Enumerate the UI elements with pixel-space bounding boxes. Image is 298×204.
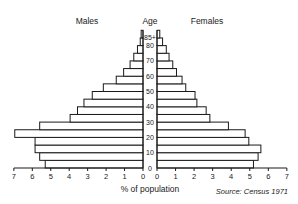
female-bar-70-74: [157, 53, 169, 61]
age-tick-30: 30: [146, 119, 154, 126]
female-bar-65-69: [157, 61, 173, 69]
male-x-tick: 4: [67, 172, 71, 181]
female-bar-25-29: [157, 122, 228, 130]
male-x-tick: 5: [49, 172, 53, 181]
female-bar-45-49: [157, 92, 195, 100]
male-x-tick: 6: [30, 172, 34, 181]
female-x-tick: 5: [248, 172, 252, 181]
female-bar-30-34: [157, 114, 210, 122]
age-tick-20: 20: [146, 134, 154, 141]
male-bar-0-4: [45, 160, 143, 168]
age-tick-40: 40: [146, 103, 154, 110]
male-x-tick: 0: [141, 172, 145, 181]
male-x-tick: 1: [122, 172, 126, 181]
age-tick-85+: 85+: [144, 34, 156, 41]
male-bar-15-19: [35, 137, 143, 145]
female-x-tick: 0: [155, 172, 159, 181]
age-tick-50: 50: [146, 88, 154, 95]
male-bar-65-69: [130, 61, 143, 69]
male-bar-5-9: [40, 153, 143, 161]
female-bar-80-84: [157, 38, 163, 46]
male-bars: [15, 30, 143, 168]
age-header-label: Age: [142, 16, 157, 26]
age-axis-labels: 0102030405060708085+: [144, 34, 156, 171]
age-tick-0: 0: [148, 165, 152, 172]
male-bar-50-54: [103, 84, 143, 92]
female-x-tick: 2: [192, 172, 196, 181]
female-x-tick: 6: [266, 172, 270, 181]
male-x-tick: 7: [12, 172, 16, 181]
male-bar-10-14: [35, 145, 143, 153]
source-note: Source: Census 1971: [216, 187, 288, 196]
male-bar-25-29: [40, 122, 143, 130]
female-bar-10-14: [157, 145, 261, 153]
female-bar-55-59: [157, 76, 182, 84]
female-bar-60-64: [157, 69, 176, 77]
female-bar-15-19: [157, 137, 249, 145]
females-label: Females: [191, 16, 224, 26]
male-bar-70-74: [134, 53, 143, 61]
age-tick-60: 60: [146, 73, 154, 80]
female-bar-75-79: [157, 46, 166, 54]
female-bar-35-39: [157, 107, 206, 115]
male-bar-40-44: [84, 99, 143, 107]
population-pyramid-chart: 0011223344556677 0102030405060708085+ Ma…: [0, 0, 298, 204]
female-x-tick: 1: [173, 172, 177, 181]
female-x-tick: 3: [211, 172, 215, 181]
female-bar-40-44: [157, 99, 197, 107]
male-bar-55-59: [116, 76, 143, 84]
female-bars: [157, 30, 261, 168]
female-bar-50-54: [157, 84, 186, 92]
male-bar-60-64: [124, 69, 143, 77]
female-bar-0-4: [157, 160, 253, 168]
age-tick-70: 70: [146, 57, 154, 64]
female-bar-20-24: [157, 130, 245, 138]
age-tick-10: 10: [146, 149, 154, 156]
male-bar-45-49: [92, 92, 143, 100]
female-x-tick: 4: [229, 172, 233, 181]
male-bar-30-34: [70, 114, 143, 122]
male-bar-75-79: [137, 46, 143, 54]
male-x-tick: 3: [86, 172, 90, 181]
age-tick-80: 80: [146, 42, 154, 49]
male-bar-35-39: [78, 107, 143, 115]
male-x-tick: 2: [104, 172, 108, 181]
male-bar-20-24: [15, 130, 143, 138]
female-x-tick: 7: [285, 172, 289, 181]
x-axis-label: % of population: [121, 184, 180, 194]
female-bar-5-9: [157, 153, 258, 161]
males-label: Males: [76, 16, 99, 26]
